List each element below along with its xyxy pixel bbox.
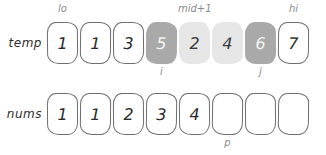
nums-cell-4: 4: [179, 93, 210, 135]
cell-value: 5: [156, 33, 166, 52]
cell-value: 7: [288, 33, 298, 52]
cell-value: 3: [123, 33, 133, 52]
cell-value: 3: [156, 104, 166, 123]
nums-cell-7: [278, 93, 309, 135]
pointer-midplus1: mid+1: [178, 3, 211, 14]
temp-cell-0: 1: [47, 22, 78, 64]
row-label-temp: temp: [2, 36, 42, 50]
cell-value: 1: [90, 33, 100, 52]
nums-cell-6: [245, 93, 276, 135]
row-label-nums: nums: [2, 107, 42, 121]
cell-value: 1: [90, 104, 100, 123]
cell-value: 2: [189, 33, 199, 52]
array-merge-diagram: temp11352467lomid+1hiijnums11234p: [0, 0, 326, 155]
cell-value: 4: [222, 33, 232, 52]
nums-cell-0: 1: [47, 93, 78, 135]
temp-cell-7: 7: [278, 22, 309, 64]
nums-cell-5: [212, 93, 243, 135]
temp-cell-3: 5: [146, 22, 177, 64]
temp-cell-5: 4: [212, 22, 243, 64]
cell-value: 1: [57, 33, 67, 52]
nums-cell-1: 1: [80, 93, 111, 135]
pointer-j: j: [244, 66, 277, 77]
nums-cell-3: 3: [146, 93, 177, 135]
cell-value: 2: [123, 104, 133, 123]
nums-cell-2: 2: [113, 93, 144, 135]
cell-value: 4: [189, 104, 199, 123]
temp-cell-1: 1: [80, 22, 111, 64]
temp-cell-4: 2: [179, 22, 210, 64]
temp-cell-2: 3: [113, 22, 144, 64]
cell-value: 1: [57, 104, 67, 123]
pointer-hi: hi: [277, 3, 310, 14]
pointer-p: p: [211, 137, 244, 148]
cell-value: 6: [255, 33, 265, 52]
temp-cell-6: 6: [245, 22, 276, 64]
pointer-i: i: [145, 66, 178, 77]
pointer-lo: lo: [46, 3, 79, 14]
